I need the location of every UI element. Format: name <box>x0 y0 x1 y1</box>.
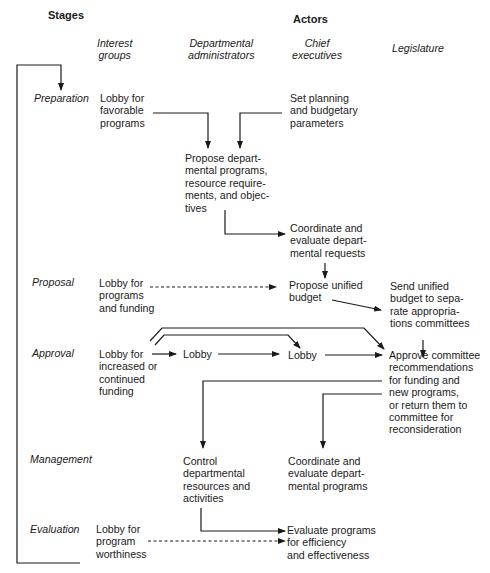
stages-header: Stages <box>48 9 84 21</box>
node-lobby-increased-funding: Lobby for increased or continued funding <box>99 348 157 398</box>
arrow-lobby-outer-curve <box>150 328 384 349</box>
column-header-interest-groups: Interest groups <box>97 37 132 62</box>
column-header-legislature: Legislature <box>392 42 444 54</box>
arrow-control-to-evaluate <box>201 508 285 531</box>
stage-label-evaluation: Evaluation <box>30 523 79 535</box>
stage-label-approval: Approval <box>32 347 74 359</box>
node-lobby-programs-funding: Lobby for programs and funding <box>99 277 154 314</box>
node-lobby-favorable-programs: Lobby for favorable programs <box>100 92 145 129</box>
actors-header: Actors <box>293 13 328 25</box>
node-approve-committee-recommendations: Approve committee recommendations for fu… <box>389 349 480 436</box>
node-set-planning-parameters: Set planning and budgetary parameters <box>290 92 358 129</box>
node-dept-lobby: Lobby <box>183 348 212 360</box>
node-send-unified-budget: Send unified budget to sepa- rate approp… <box>390 280 469 330</box>
node-control-departmental-resources: Control departmental resources and activ… <box>183 455 250 505</box>
stage-label-proposal: Proposal <box>32 276 74 288</box>
arrow-approve-to-control <box>203 381 382 448</box>
node-propose-departmental-programs: Propose depart- mental programs, resourc… <box>185 152 269 214</box>
node-coordinate-departmental-programs: Coordinate and evaluate depart- mental p… <box>288 455 367 492</box>
cycle-return-line <box>17 65 80 563</box>
column-header-departmental-administrators: Departmental administrators <box>188 37 255 62</box>
node-evaluate-programs: Evaluate programs for efficiency and eff… <box>287 524 376 561</box>
stage-label-preparation: Preparation <box>34 92 89 104</box>
node-coordinate-departmental-requests: Coordinate and evaluate depart- mental r… <box>290 222 367 259</box>
arrow-parameters-to-propose <box>240 113 282 148</box>
node-chief-lobby: Lobby <box>288 349 317 361</box>
node-lobby-program-worthiness: Lobby for program worthiness <box>96 523 147 560</box>
arrow-lobby-inner-curve <box>155 335 300 348</box>
node-propose-unified-budget: Propose unified budget <box>289 279 363 304</box>
column-header-chief-executives: Chief executives <box>292 37 342 62</box>
stage-label-management: Management <box>30 453 92 465</box>
arrow-approve-to-coordinate <box>323 394 382 448</box>
arrow-lobby-to-propose <box>153 113 208 148</box>
